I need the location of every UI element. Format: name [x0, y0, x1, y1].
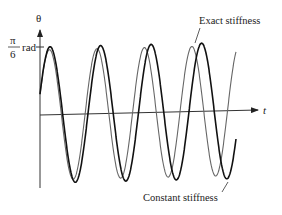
y-tick-unit: rad — [22, 41, 37, 53]
y-tick-numerator: π — [10, 34, 16, 46]
x-axis — [40, 110, 258, 115]
annotation-constant-stiffness: Constant stiffness — [143, 192, 218, 203]
series-constant-stiffness — [40, 43, 236, 182]
annotation-exact-stiffness: Exact stiffness — [199, 15, 260, 26]
y-tick-denominator: 6 — [10, 48, 16, 60]
annotation-exact-leader — [195, 28, 200, 43]
chart: θ t π 6 rad Exact stiffness Constant sti… — [0, 0, 282, 215]
x-axis-label: t — [263, 104, 267, 116]
annotation-constant-leader — [222, 182, 228, 192]
y-axis-label: θ — [36, 12, 41, 24]
